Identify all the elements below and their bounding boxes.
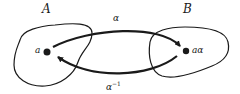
point-a-label: a: [35, 45, 40, 55]
arrow-alpha: [53, 31, 180, 47]
point-a: [44, 49, 51, 56]
set-a-label: A: [42, 2, 51, 16]
mapping-diagram: A B a aα α α−1: [0, 0, 240, 94]
point-a-alpha-label: aα: [192, 45, 203, 55]
set-a-region: [14, 24, 92, 86]
arrow-alpha-label: α: [113, 13, 119, 23]
arrow-alpha-inverse: [58, 56, 177, 73]
point-a-alpha: [183, 48, 189, 54]
set-b-label: B: [183, 2, 192, 16]
arrow-alpha-inverse-exponent: −1: [112, 80, 121, 87]
arrow-alpha-inverse-label: α−1: [106, 80, 121, 92]
